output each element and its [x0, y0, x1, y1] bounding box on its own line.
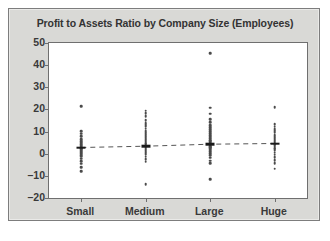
figure-canvas: Profit to Assets Ratio by Company Size (… [0, 0, 330, 241]
data-point [209, 178, 212, 181]
y-tick-label: 50 [15, 36, 45, 48]
y-tick-label: 30 [15, 80, 45, 92]
plot-frame [48, 42, 308, 199]
x-tick-label-huge: Huge [261, 205, 287, 217]
y-tick-label: –20 [15, 191, 45, 203]
data-point [80, 105, 83, 108]
data-point [80, 166, 83, 169]
x-tick-label-medium: Medium [125, 205, 165, 217]
y-tick-label: –10 [15, 169, 45, 181]
mean-connector-line [81, 144, 274, 148]
y-tick-mark [45, 132, 49, 133]
y-tick-mark [45, 154, 49, 155]
data-point [209, 106, 212, 109]
y-axis: 50403020100–10–20 [9, 42, 45, 197]
y-tick-mark [45, 65, 49, 66]
x-tick-label-small: Small [66, 205, 94, 217]
chart-title: Profit to Assets Ratio by Company Size (… [9, 17, 321, 29]
y-tick-mark [45, 176, 49, 177]
data-point [144, 183, 147, 186]
chart-panel: Profit to Assets Ratio by Company Size (… [8, 8, 320, 221]
mean-line-overlay [49, 43, 307, 198]
data-point [144, 160, 147, 163]
group-mean-marker [270, 142, 279, 145]
y-tick-mark [45, 43, 49, 44]
group-mean-marker [141, 145, 150, 148]
y-tick-label: 40 [15, 58, 45, 70]
x-tick-label-large: Large [195, 205, 224, 217]
x-axis: SmallMediumLargeHuge [48, 199, 306, 219]
y-tick-mark [45, 109, 49, 110]
data-point [273, 167, 276, 170]
data-point [209, 113, 212, 116]
data-point [80, 170, 83, 173]
y-tick-label: 10 [15, 125, 45, 137]
data-point [273, 162, 276, 165]
group-mean-marker [77, 146, 86, 149]
y-tick-label: 20 [15, 102, 45, 114]
y-tick-label: 0 [15, 147, 45, 159]
y-tick-mark [45, 87, 49, 88]
group-mean-marker [206, 143, 215, 146]
data-point [273, 106, 276, 109]
data-point [209, 52, 212, 55]
plot-area [49, 43, 307, 198]
data-point [144, 115, 147, 118]
data-point [209, 162, 212, 165]
